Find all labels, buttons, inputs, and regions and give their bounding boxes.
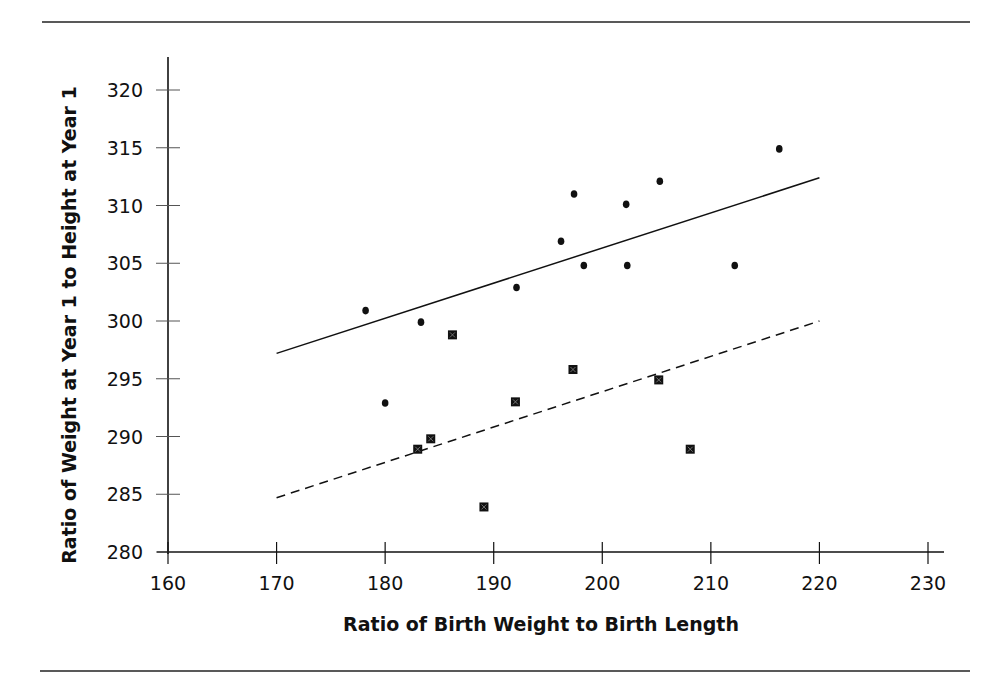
axes — [157, 57, 944, 554]
y-tick-label: 300 — [107, 310, 143, 332]
scatter-chart: 280285290295300305310315320 160170180190… — [0, 0, 1007, 679]
x-tick-label: 220 — [801, 572, 837, 594]
circle-point — [382, 399, 389, 407]
y-tick-label: 290 — [107, 426, 143, 448]
x-axis-title: Ratio of Birth Weight to Birth Length — [343, 613, 739, 635]
x-tick-label: 160 — [150, 572, 186, 594]
circle-point — [418, 318, 425, 326]
circle-point — [581, 262, 588, 270]
circle-point — [624, 262, 631, 270]
x-tick-label: 210 — [693, 572, 729, 594]
circle-point — [362, 307, 369, 315]
y-tick-label: 310 — [107, 195, 143, 217]
y-axis-title: Ratio of Weight at Year 1 to Height at Y… — [58, 86, 80, 564]
circle-point — [571, 190, 578, 198]
squares-trendline — [277, 321, 820, 498]
y-tick-label: 305 — [107, 252, 143, 274]
y-tick-label: 280 — [107, 541, 143, 563]
y-tick-label: 295 — [107, 368, 143, 390]
y-tick-label: 285 — [107, 483, 143, 505]
y-tick-label: 315 — [107, 137, 143, 159]
x-tick-label: 200 — [584, 572, 620, 594]
circle-point — [776, 145, 783, 153]
circle-point — [513, 284, 520, 292]
circle-point — [558, 238, 565, 246]
y-axis-ticks: 280285290295300305310315320 — [107, 79, 180, 563]
data-points — [362, 145, 782, 511]
circle-point — [657, 177, 664, 185]
x-tick-label: 170 — [258, 572, 294, 594]
x-tick-label: 180 — [367, 572, 403, 594]
circle-point — [623, 201, 630, 209]
x-tick-label: 230 — [910, 572, 946, 594]
circle-point — [731, 262, 738, 270]
x-tick-label: 190 — [476, 572, 512, 594]
trendlines — [277, 178, 820, 498]
x-axis-ticks: 160170180190200210220230 — [150, 542, 946, 594]
y-tick-label: 320 — [107, 79, 143, 101]
